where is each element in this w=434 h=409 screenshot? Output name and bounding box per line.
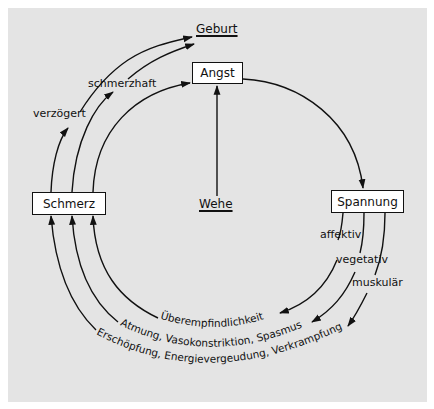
arrow-ueberempfindlichkeit-to-schmerz	[93, 216, 158, 318]
label-vegetativ: vegetativ	[336, 253, 388, 266]
arrow-schmerz-to-angst	[93, 83, 190, 192]
node-schmerz: Schmerz	[32, 192, 106, 215]
node-angst: Angst	[192, 62, 243, 84]
node-spannung: Spannung	[331, 190, 404, 213]
label-schmerzhaft: schmerzhaft	[88, 77, 156, 90]
label-verzoegert: verzögert	[33, 107, 86, 120]
label-affektiv: affektiv	[320, 228, 361, 241]
label-ueberempfindlichkeit: Überempfindlichkeit	[159, 309, 264, 329]
label-wehe: Wehe	[199, 197, 233, 211]
arrow-angst-to-spannung	[243, 79, 363, 188]
label-geburt: Geburt	[196, 22, 238, 36]
label-muskular: muskulär	[352, 276, 403, 289]
arrow-schmerz-to-geburt-verzoegert	[51, 128, 68, 192]
